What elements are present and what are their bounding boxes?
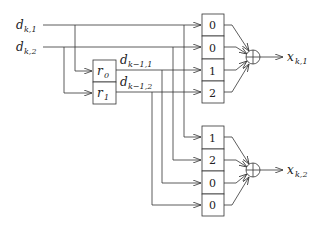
svg-text:1: 1	[209, 65, 216, 78]
svg-text:k,1: k,1	[24, 25, 36, 34]
input-label-dk1: d k,1	[16, 18, 36, 34]
svg-text:d: d	[16, 40, 24, 54]
label-dk-1-2: d k−1,2	[120, 75, 152, 91]
svg-text:1: 1	[104, 93, 109, 102]
svg-text:d: d	[120, 75, 128, 89]
svg-text:x: x	[287, 163, 294, 177]
diagram-canvas: d k,1 d k,2 r 0 r 1 d k−1,1 d k−1,2	[0, 0, 324, 229]
svg-text:0: 0	[209, 177, 216, 190]
output-label-xk2: x k,2	[287, 163, 307, 179]
svg-text:k,2: k,2	[295, 170, 307, 179]
adder-upper	[246, 50, 260, 64]
lower-weight-column: 1 2 0 0	[202, 126, 224, 216]
svg-text:2: 2	[209, 87, 216, 100]
svg-text:d: d	[16, 18, 24, 32]
svg-text:0: 0	[104, 71, 109, 80]
wire-dk-1-2	[116, 92, 201, 205]
svg-text:1: 1	[209, 132, 216, 145]
output-label-xk1: x k,1	[287, 50, 307, 66]
svg-text:0: 0	[209, 199, 216, 212]
svg-text:d: d	[120, 53, 128, 67]
svg-text:k−1,1: k−1,1	[128, 60, 152, 69]
svg-text:0: 0	[209, 42, 216, 55]
svg-text:k,2: k,2	[24, 47, 36, 56]
svg-text:x: x	[287, 50, 294, 64]
svg-text:k,1: k,1	[295, 57, 307, 66]
register-block: r 0 r 1	[93, 60, 116, 104]
svg-text:0: 0	[209, 19, 216, 32]
svg-text:k−1,2: k−1,2	[128, 82, 152, 91]
lower-adder-inputs	[224, 137, 249, 205]
label-dk-1-1: d k−1,1	[120, 53, 152, 69]
adder-lower	[246, 163, 260, 177]
upper-weight-column: 0 0 1 2	[202, 14, 224, 103]
svg-text:2: 2	[209, 154, 216, 167]
input-label-dk2: d k,2	[16, 40, 36, 56]
upper-adder-inputs	[224, 25, 249, 92]
